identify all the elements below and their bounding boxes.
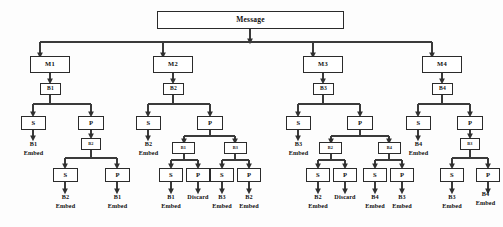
- node-m4-s[interactable]: S: [406, 116, 431, 130]
- node-m4-block[interactable]: B4: [432, 83, 453, 95]
- node-m3-s[interactable]: S: [286, 116, 311, 130]
- diagram-canvas: Message M1 B1 S P B1 Embed B2 S P B2 Emb…: [0, 0, 503, 227]
- leaf-m4-p-s: B3 Embed: [432, 193, 472, 211]
- leaf-m4-s: B4 Embed: [398, 140, 439, 158]
- leaf-bottom: Embed: [128, 149, 169, 158]
- leaf-m1-s-top: B1: [13, 140, 54, 149]
- leaf-m1-s-bottom: Embed: [13, 149, 54, 158]
- node-m3-b4-p[interactable]: P: [390, 168, 414, 182]
- leaf-top: B2: [230, 193, 268, 202]
- leaf-bottom: Embed: [151, 202, 191, 211]
- node-m1-p[interactable]: P: [78, 116, 104, 130]
- node-m4-p-s[interactable]: S: [440, 168, 464, 182]
- leaf-bottom: Embed: [230, 202, 268, 211]
- leaf-m2-s: B2 Embed: [128, 140, 169, 158]
- node-m2-b3-s[interactable]: S: [210, 168, 234, 182]
- node-m3-b2-s[interactable]: S: [306, 168, 330, 182]
- leaf-bottom: Embed: [398, 149, 439, 158]
- node-m4[interactable]: M4: [422, 56, 462, 73]
- leaf-m2-b3-p: B2 Embed: [230, 193, 268, 211]
- node-m1[interactable]: M1: [30, 56, 70, 73]
- node-m4-p-block[interactable]: B3: [460, 138, 480, 150]
- leaf-m1-p-s: B2 Embed: [45, 193, 86, 211]
- leaf-m3-b4-p: B3 Embed: [383, 193, 421, 211]
- leaf-top: B4: [468, 190, 503, 199]
- leaf-bottom: Embed: [97, 202, 138, 211]
- node-m2-b1-s[interactable]: S: [159, 168, 183, 182]
- node-m3[interactable]: M3: [303, 56, 343, 73]
- leaf-m3-s: B3 Embed: [278, 140, 319, 158]
- leaf-bottom: Embed: [298, 202, 338, 211]
- node-m2[interactable]: M2: [153, 56, 193, 73]
- leaf-top: B3: [383, 193, 421, 202]
- node-m1-s[interactable]: S: [21, 116, 46, 130]
- leaf-bottom: Embed: [383, 202, 421, 211]
- node-m4-p[interactable]: P: [457, 116, 483, 130]
- node-m2-p-block-right[interactable]: B3: [224, 142, 247, 154]
- node-m3-p[interactable]: P: [347, 116, 373, 130]
- leaf-m4-p-p: B4 Embed: [468, 190, 503, 208]
- node-m1-block[interactable]: B1: [40, 83, 61, 95]
- leaf-bottom: Embed: [45, 202, 86, 211]
- node-m3-b4-s[interactable]: S: [363, 168, 387, 182]
- node-m3-block[interactable]: B3: [313, 83, 334, 95]
- node-m2-block[interactable]: B2: [163, 83, 184, 95]
- leaf-top: B3: [432, 193, 472, 202]
- leaf-m1-s: B1 Embed: [13, 140, 54, 158]
- node-m1-p-s[interactable]: S: [53, 168, 78, 182]
- node-m1-p-block[interactable]: B2: [81, 138, 101, 150]
- node-message-root[interactable]: Message: [157, 11, 344, 29]
- leaf-bottom: Embed: [432, 202, 472, 211]
- node-m2-p-block-left[interactable]: B1: [172, 142, 195, 154]
- node-m2-s[interactable]: S: [136, 116, 161, 130]
- leaf-top: B2: [45, 193, 86, 202]
- leaf-bottom: Embed: [468, 199, 503, 208]
- node-m1-p-p[interactable]: P: [105, 168, 130, 182]
- node-m4-p-p[interactable]: P: [476, 168, 500, 182]
- leaf-top: B3: [278, 140, 319, 149]
- node-m3-b2-p[interactable]: P: [333, 168, 357, 182]
- node-m2-p[interactable]: P: [197, 116, 223, 130]
- node-m2-b1-p[interactable]: P: [186, 168, 210, 182]
- node-m3-p-block-left[interactable]: B2: [319, 142, 342, 154]
- leaf-bottom: Embed: [278, 149, 319, 158]
- leaf-top: B2: [128, 140, 169, 149]
- leaf-top: B1: [97, 193, 138, 202]
- leaf-m1-p-p: B1 Embed: [97, 193, 138, 211]
- leaf-top: B4: [398, 140, 439, 149]
- node-m2-b3-p[interactable]: P: [237, 168, 261, 182]
